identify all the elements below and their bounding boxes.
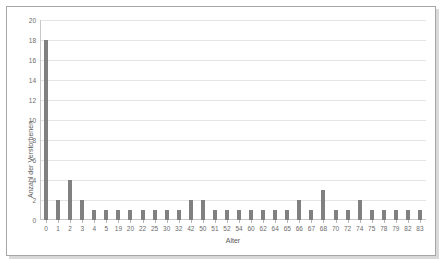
- x-axis-tick-mark: [263, 220, 264, 223]
- bar: [418, 210, 422, 220]
- x-axis-tick-label: 25: [149, 225, 161, 233]
- x-axis-tick-mark: [203, 220, 204, 223]
- x-axis-tick-label: 5: [100, 225, 112, 233]
- bar: [237, 210, 241, 220]
- x-axis-tick-label: 72: [342, 225, 354, 233]
- x-axis-tick-label: 2: [64, 225, 76, 233]
- bar: [249, 210, 253, 220]
- bar: [382, 210, 386, 220]
- x-axis-tick-mark: [311, 220, 312, 223]
- chart-figure: Anzahl der Verstorbenen 0246810121416182…: [0, 0, 444, 263]
- x-axis-tick-mark: [167, 220, 168, 223]
- x-axis-tick-label: 54: [233, 225, 245, 233]
- x-axis-tick-mark: [215, 220, 216, 223]
- bar: [56, 200, 60, 220]
- x-axis-tick-label: 66: [293, 225, 305, 233]
- x-axis-tick-mark: [323, 220, 324, 223]
- x-axis-tick-mark: [70, 220, 71, 223]
- bar: [213, 210, 217, 220]
- x-axis-tick-label: 62: [257, 225, 269, 233]
- y-axis-tick-labels: 02468101214161820: [4, 20, 36, 220]
- x-axis-tick-mark: [287, 220, 288, 223]
- x-axis-tick-label: 1: [52, 225, 64, 233]
- x-axis-tick-label: 52: [221, 225, 233, 233]
- x-axis-tick-label: 74: [354, 225, 366, 233]
- x-axis-tick-label: 65: [281, 225, 293, 233]
- x-axis-tick-mark: [275, 220, 276, 223]
- x-axis-tick-label: 42: [185, 225, 197, 233]
- x-axis-tick-mark: [58, 220, 59, 223]
- bar: [189, 200, 193, 220]
- x-axis-tick-mark: [94, 220, 95, 223]
- bar: [309, 210, 313, 220]
- y-axis-tick-label: 18: [8, 37, 36, 44]
- x-axis-tick-label: 70: [330, 225, 342, 233]
- x-axis-tick-label: 60: [245, 225, 257, 233]
- x-axis-tick-label: 83: [414, 225, 426, 233]
- x-axis-tick-label: 68: [317, 225, 329, 233]
- x-axis-tick-mark: [118, 220, 119, 223]
- bar: [68, 180, 72, 220]
- x-axis-tick-mark: [155, 220, 156, 223]
- x-axis-tick-mark: [384, 220, 385, 223]
- bar: [346, 210, 350, 220]
- y-axis-tick-label: 4: [8, 177, 36, 184]
- bar: [128, 210, 132, 220]
- x-axis-tick-mark: [191, 220, 192, 223]
- x-axis-tick-mark: [348, 220, 349, 223]
- bar: [394, 210, 398, 220]
- bar: [201, 200, 205, 220]
- x-axis-tick-label: 3: [76, 225, 88, 233]
- x-axis-tick-mark: [336, 220, 337, 223]
- x-axis-tick-label: 20: [124, 225, 136, 233]
- bar-series: [40, 20, 426, 220]
- x-axis-tick-label: 64: [269, 225, 281, 233]
- bar: [261, 210, 265, 220]
- x-axis-tick-label: 0: [40, 225, 52, 233]
- x-axis-tick-mark: [46, 220, 47, 223]
- bar: [92, 210, 96, 220]
- x-axis-tick-mark: [106, 220, 107, 223]
- bar: [177, 210, 181, 220]
- y-axis-tick-label: 2: [8, 197, 36, 204]
- x-axis-tick-mark: [179, 220, 180, 223]
- bar: [116, 210, 120, 220]
- bar: [358, 200, 362, 220]
- x-axis-tick-mark: [299, 220, 300, 223]
- y-axis-tick-label: 6: [8, 157, 36, 164]
- x-axis-tick-label: 78: [378, 225, 390, 233]
- x-axis-tick-label: 79: [390, 225, 402, 233]
- plot-area: [40, 20, 426, 220]
- x-axis-tick-labels: 0123451920222530324250515254606264656667…: [40, 225, 426, 235]
- x-axis-tick-mark: [143, 220, 144, 223]
- x-axis-tick-mark: [396, 220, 397, 223]
- x-axis-tick-label: 82: [402, 225, 414, 233]
- y-axis-tick-label: 10: [8, 117, 36, 124]
- x-axis-tick-marks: [40, 220, 426, 224]
- y-axis-tick-label: 0: [8, 217, 36, 224]
- x-axis-tick-label: 51: [209, 225, 221, 233]
- bar: [104, 210, 108, 220]
- x-axis-tick-label: 75: [366, 225, 378, 233]
- x-axis-tick-mark: [82, 220, 83, 223]
- y-axis-tick-label: 16: [8, 57, 36, 64]
- y-axis-tick-label: 20: [8, 17, 36, 24]
- x-axis-tick-label: 19: [112, 225, 124, 233]
- bar: [225, 210, 229, 220]
- x-axis-tick-label: 30: [161, 225, 173, 233]
- x-axis-tick-label: 4: [88, 225, 100, 233]
- x-axis-tick-mark: [251, 220, 252, 223]
- x-axis-tick-label: 50: [197, 225, 209, 233]
- bar: [165, 210, 169, 220]
- bar: [80, 200, 84, 220]
- bar: [334, 210, 338, 220]
- y-axis-tick-label: 12: [8, 97, 36, 104]
- x-axis-tick-label: 22: [137, 225, 149, 233]
- bar: [406, 210, 410, 220]
- x-axis-tick-mark: [372, 220, 373, 223]
- bar: [44, 40, 48, 220]
- x-axis-tick-mark: [420, 220, 421, 223]
- bar: [141, 210, 145, 220]
- plot-wrapper: Anzahl der Verstorbenen 0246810121416182…: [0, 0, 444, 263]
- x-axis-title: Alter: [40, 237, 426, 244]
